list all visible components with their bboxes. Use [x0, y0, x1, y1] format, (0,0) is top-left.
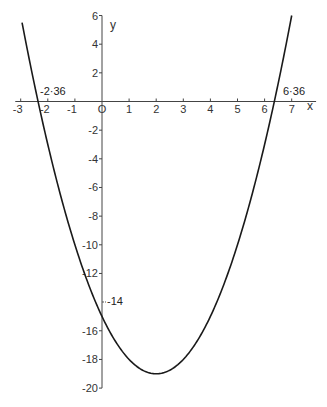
x-tick-label: 3 [180, 103, 186, 115]
ticks: -3-2-1O1234567642-2-4-6-8-10-12-16-18-20 [13, 10, 295, 395]
x-tick-label: 2 [153, 103, 159, 115]
x-tick-label: -2 [40, 103, 50, 115]
y-tick-label: -4 [88, 153, 98, 165]
y-tick-label: 6 [92, 10, 98, 22]
y-tick-label: -8 [88, 210, 98, 222]
x-tick-label: -1 [67, 103, 77, 115]
x-tick-label: 1 [126, 103, 132, 115]
axes [15, 16, 316, 389]
x-tick-label: 5 [234, 103, 240, 115]
x-tick-label: 4 [207, 103, 213, 115]
y-tick-label: -10 [82, 239, 98, 251]
x-axis-label: x [307, 99, 313, 113]
y-mark-label: -14 [107, 295, 123, 307]
x-tick-label: O [98, 103, 107, 115]
y-tick-label: -20 [82, 382, 98, 394]
root-left-label: -2·36 [40, 85, 66, 97]
y-tick-label: 4 [92, 38, 98, 50]
parabola-curve [22, 16, 292, 374]
parabola-chart: -3-2-1O1234567642-2-4-6-8-10-12-16-18-20… [0, 0, 327, 407]
y-tick-label: -18 [82, 353, 98, 365]
x-tick-label: 7 [289, 103, 295, 115]
y-tick-label: 2 [92, 67, 98, 79]
y-axis-label: y [110, 18, 116, 32]
x-tick-label: -3 [13, 103, 23, 115]
x-tick-label: 6 [262, 103, 268, 115]
y-tick-label: -2 [88, 124, 98, 136]
root-right-label: 6·36 [283, 85, 305, 97]
y-tick-label: -16 [82, 325, 98, 337]
y-tick-label: -6 [88, 181, 98, 193]
